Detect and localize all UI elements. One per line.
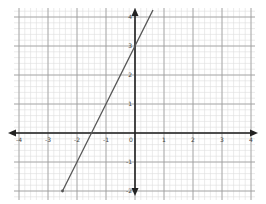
series-layer (61, 10, 153, 192)
x-tick-label: -3 (45, 136, 51, 143)
y-axis-up-arrow-icon (132, 8, 139, 16)
x-tick-label: 4 (249, 136, 253, 143)
x-tick-label: -1 (103, 136, 109, 143)
x-tick-label: 3 (220, 136, 224, 143)
x-tick-label: -2 (74, 136, 80, 143)
x-axis-left-arrow-icon (8, 130, 16, 137)
series-line (63, 10, 153, 191)
y-tick-label: -1 (126, 158, 132, 165)
x-tick-label: -4 (16, 136, 22, 143)
coordinate-plane: -4-3-2-101234 -2-11234 (0, 0, 266, 204)
y-tick-label: 4 (128, 13, 132, 20)
y-tick-label: 1 (128, 100, 132, 107)
x-tick-label: 0 (129, 136, 133, 143)
y-tick-label: -2 (126, 187, 132, 194)
y-axis-down-arrow-icon (132, 188, 139, 196)
x-tick-label: 1 (162, 136, 166, 143)
y-tick-label: 3 (128, 42, 132, 49)
line-endpoint-dot (61, 190, 64, 193)
y-tick-label: 2 (128, 71, 132, 78)
x-tick-label: 2 (191, 136, 195, 143)
